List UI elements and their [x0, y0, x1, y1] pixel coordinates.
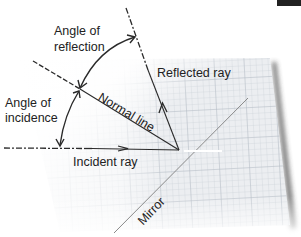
- reflection-diagram: Angle of reflection Angle of incidence R…: [0, 0, 301, 237]
- label-reflected-ray: Reflected ray: [157, 66, 231, 80]
- corner-mark: [277, 0, 301, 6]
- label-incident-ray: Incident ray: [73, 155, 138, 169]
- label-angle-of-incidence-line2: incidence: [5, 111, 58, 125]
- label-angle-of-reflection-line2: reflection: [54, 40, 105, 54]
- label-angle-of-reflection-line1: Angle of: [54, 24, 100, 38]
- label-angle-of-incidence-line1: Angle of: [5, 96, 51, 110]
